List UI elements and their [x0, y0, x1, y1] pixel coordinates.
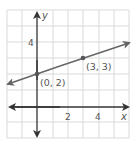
tick-label-y4: 4	[28, 38, 34, 48]
tick-label-x2: 2	[65, 112, 71, 122]
point-label-3-3: (3, 3)	[86, 61, 112, 72]
y-axis-label: y	[41, 10, 49, 21]
x-axis-label: x	[120, 111, 127, 122]
point-label-0-2: (0, 2)	[40, 77, 66, 88]
point-3-3	[81, 56, 86, 61]
coordinate-plane: y x 4 2 4 (0, 2) (3, 3)	[0, 0, 137, 145]
point-0-2	[35, 72, 40, 77]
tick-label-x4: 4	[95, 112, 101, 122]
